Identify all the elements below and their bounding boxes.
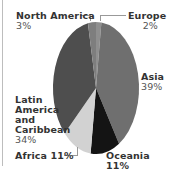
label-europe: Europe 2%: [128, 11, 158, 31]
leader-europe: [100, 15, 126, 16]
leader-europe-drop: [100, 15, 101, 21]
label-north-america: North America 3%: [16, 11, 95, 31]
label-africa: Africa 11%: [15, 151, 74, 161]
label-africa-text: Africa 11%: [15, 150, 74, 161]
label-asia: Asia 39%: [141, 72, 159, 92]
leader-africa-rise: [77, 147, 78, 156]
label-asia-pct: 39%: [141, 82, 159, 92]
label-oceania: Oceania 11%: [106, 151, 174, 171]
label-europe-pct: 2%: [128, 21, 158, 31]
label-north-america-pct: 3%: [16, 21, 95, 31]
label-latin-america: Latin America and Caribbean 34%: [15, 95, 70, 145]
label-latin-pct: 34%: [15, 135, 70, 145]
label-oceania-text: Oceania 11%: [106, 150, 150, 171]
